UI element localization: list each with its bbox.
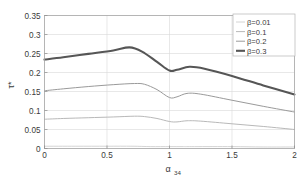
x-tick-label: 1	[167, 151, 172, 160]
legend-label-0: β=0.01	[247, 18, 271, 27]
y-axis-title: τ*	[6, 81, 16, 89]
y-tick-label: 0	[36, 145, 41, 154]
y-tick-label: 0.3	[29, 31, 41, 40]
chart-figure: 00.511.52 00.050.10.150.20.250.30.35 α 3…	[0, 0, 307, 182]
y-tick-label: 0.2	[29, 69, 41, 78]
y-tick-label: 0.15	[25, 88, 41, 97]
x-axis-title: α 34	[165, 164, 181, 176]
y-tick-label: 0.05	[25, 126, 41, 135]
legend-label-3: β=0.3	[247, 47, 266, 56]
x-tick-label: 2	[292, 151, 297, 160]
x-tick-label: 0.5	[101, 151, 113, 160]
x-axis-title-base: α	[165, 164, 170, 174]
x-tick-label: 1.5	[226, 151, 238, 160]
line-chart: 00.511.52 00.050.10.150.20.250.30.35 α 3…	[0, 0, 307, 182]
y-tick-label: 0.1	[29, 107, 41, 116]
y-tick-label: 0.35	[25, 12, 41, 21]
legend-label-1: β=0.1	[247, 28, 266, 37]
y-tick-labels: 00.050.10.150.20.250.30.35	[25, 12, 41, 154]
legend: β=0.01β=0.1β=0.2β=0.3	[233, 14, 295, 56]
x-axis-title-subscript: 34	[174, 169, 181, 176]
y-tick-label: 0.25	[25, 50, 41, 59]
x-tick-label: 0	[42, 151, 47, 160]
x-tick-labels: 00.511.52	[42, 151, 297, 160]
legend-label-2: β=0.2	[247, 37, 266, 46]
